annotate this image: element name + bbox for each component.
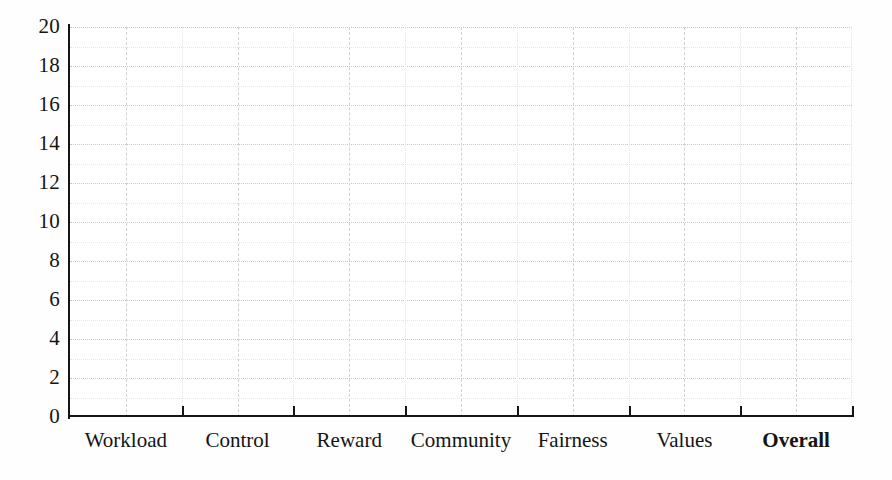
y-axis-tick-label: 10	[4, 211, 60, 232]
y-axis-tick-label: 20	[4, 16, 60, 37]
gridline-vertical	[349, 27, 350, 417]
y-axis-tick-label: 14	[4, 133, 60, 154]
x-axis-tick	[852, 406, 854, 417]
y-axis-tick-labels: 02468101214161820	[0, 0, 60, 480]
x-axis-category-label: Community	[405, 428, 517, 452]
y-axis-tick-label: 6	[4, 289, 60, 310]
y-axis-tick-label: 0	[4, 406, 60, 427]
y-axis-tick-label: 8	[4, 250, 60, 271]
plot-area	[70, 27, 852, 417]
x-axis-category-label: Control	[182, 428, 294, 452]
bar-chart: 02468101214161820 WorkloadControlRewardC…	[0, 0, 892, 480]
gridline-vertical	[461, 27, 462, 417]
gridline-vertical-minor	[851, 27, 852, 417]
gridline-vertical	[573, 27, 574, 417]
gridline-vertical	[238, 27, 239, 417]
x-axis-line	[68, 415, 854, 417]
gridline-vertical	[796, 27, 797, 417]
x-axis-tick	[629, 406, 631, 417]
y-axis-tick-label: 16	[4, 94, 60, 115]
y-axis-tick-label: 18	[4, 55, 60, 76]
y-axis-tick-label: 12	[4, 172, 60, 193]
x-axis-category-label: Reward	[293, 428, 405, 452]
x-axis-tick	[740, 406, 742, 417]
y-axis-tick-label: 4	[4, 328, 60, 349]
x-axis-category-label: Fairness	[517, 428, 629, 452]
y-axis-tick-label: 2	[4, 367, 60, 388]
x-axis-tick	[405, 406, 407, 417]
x-axis-tick	[182, 406, 184, 417]
gridline-vertical-minor	[629, 27, 630, 417]
gridline-vertical-minor	[182, 27, 183, 417]
gridline-vertical	[684, 27, 685, 417]
gridline-vertical	[126, 27, 127, 417]
gridline-vertical-minor	[740, 27, 741, 417]
x-axis-tick	[517, 406, 519, 417]
x-axis-category-label: Values	[629, 428, 741, 452]
x-axis-tick	[293, 406, 295, 417]
y-axis-line	[68, 24, 70, 419]
gridline-vertical-minor	[293, 27, 294, 417]
x-axis-category-label: Workload	[70, 428, 182, 452]
x-axis-category-label: Overall	[740, 428, 852, 452]
gridline-vertical-minor	[405, 27, 406, 417]
gridline-vertical-minor	[517, 27, 518, 417]
